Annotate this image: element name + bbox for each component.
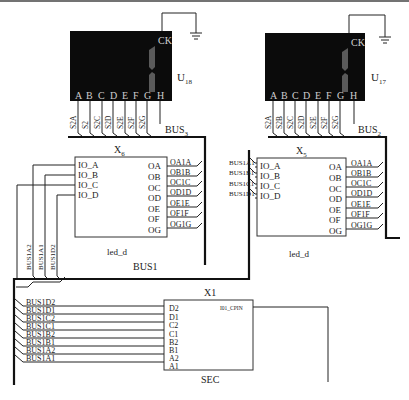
wire-label: BUS1A2 [25, 244, 33, 270]
output-pin: OE [148, 204, 160, 214]
ref-x1: X1 [204, 287, 216, 298]
decoder-name: led_d [107, 247, 127, 257]
output-pin: OF [329, 215, 341, 225]
segment-lower [149, 72, 155, 92]
output-pin: OE [329, 205, 341, 215]
pin-e: E [315, 90, 321, 101]
output-pin: OG [329, 226, 342, 236]
wire-label: OC1C [351, 179, 371, 188]
wire-label: OF1F [170, 209, 189, 218]
ground-icon [379, 37, 391, 43]
input-pin: IO_A [78, 160, 99, 170]
decoder-x6[interactable]: X6 IO_A IO_B IO_C IO_D OA OB OC OD OE OF… [75, 144, 167, 257]
wire-label: S2F [320, 117, 329, 129]
wire-label: S2B [275, 116, 284, 129]
pin-b: B [86, 90, 93, 101]
wire-label: S2D [104, 115, 113, 129]
wire-label: OC1C [170, 178, 190, 187]
ref-x5: X5 [296, 145, 307, 159]
output-pin: I01_CPIN [220, 305, 243, 311]
output-pin: OF [148, 214, 160, 224]
wire-label: S2G [331, 115, 340, 129]
wire-label: BUS1A1 [26, 354, 55, 363]
pin-e: E [122, 90, 128, 101]
ck-label: CK [351, 37, 366, 48]
wire-label: S2 [81, 121, 90, 129]
display-u18[interactable]: CK A B C D E F G H [70, 31, 173, 101]
decoder-x5[interactable]: X5 IO_A IO_B IO_C IO_D OA OB OC OD OE OF… [257, 145, 346, 259]
sec-name: SEC [201, 374, 220, 385]
wire-label: BUS1A1 [37, 244, 45, 270]
wire-label: S2C [286, 116, 295, 129]
output-pin: OA [148, 161, 161, 171]
wire-label: OG1G [351, 221, 373, 230]
wire-label: S2D [297, 115, 306, 129]
wire-label: OE1E [170, 199, 190, 208]
ref-u17: U17 [371, 71, 386, 86]
wire-label: BUS1C1 [229, 180, 255, 188]
output-pin: OD [148, 193, 161, 203]
ck-wire [162, 13, 196, 33]
input-pin: IO_D [260, 191, 281, 201]
bus-entry [16, 282, 49, 287]
pin-f: F [133, 90, 139, 101]
wire-label: OB1B [170, 168, 190, 177]
input-pin: IO_D [78, 190, 99, 200]
pin-c: C [292, 90, 299, 101]
wire-label: OD1D [170, 188, 192, 197]
output-pin: OB [148, 172, 161, 182]
output-pin: OD [329, 194, 342, 204]
ref-u18: U18 [177, 71, 192, 86]
wire-label: S2A [69, 115, 78, 129]
wire-label: S2C [93, 116, 102, 129]
wire-label: OB1B [351, 169, 371, 178]
segment-upper [342, 48, 348, 71]
input-pin: IO_B [78, 170, 98, 180]
wire-label: OF1F [351, 210, 370, 219]
pin-a: A [270, 90, 278, 101]
input-pin: D2 [169, 304, 179, 313]
pin-d: D [303, 90, 310, 101]
schematic-canvas: CK A B C D E F G H U18 S2A S2 S2C S2D [0, 0, 409, 400]
wire-label: S2E [116, 116, 125, 129]
pin-b: B [281, 90, 288, 101]
cpin-wire [253, 307, 328, 382]
wire-label: BUS1D1 [229, 190, 255, 198]
wire-label: OA1A [170, 158, 192, 167]
pin-g: G [337, 90, 344, 101]
wire-label: S2G [138, 115, 147, 129]
output-pin: OC [148, 183, 161, 193]
ground-icon [190, 33, 202, 39]
pin-g: G [144, 90, 151, 101]
segment-upper [149, 46, 155, 70]
output-pin: OB [329, 173, 342, 183]
pin-c: C [98, 90, 105, 101]
decoder-name: led_d [289, 249, 309, 259]
wire-label: BUS1A1 [229, 159, 255, 167]
wire-label: OA1A [351, 159, 373, 168]
input-pin: IO_C [260, 181, 280, 191]
input-pin: A1 [169, 362, 179, 371]
wire-label: BUS1D2 [49, 244, 57, 270]
wire-label: OD1D [351, 189, 373, 198]
ck-label: CK [158, 35, 173, 46]
wire-label: OE1E [351, 200, 371, 209]
output-pin: OG [148, 225, 161, 235]
output-pin: OC [329, 184, 342, 194]
sec-module[interactable]: X1 D2 D1 C2 C1 B2 B1 A2 A1 I01_CPIN SEC [164, 287, 253, 385]
input-pin: IO_C [78, 180, 98, 190]
wire-label: S2F [127, 117, 136, 129]
pin-h: H [157, 90, 164, 101]
wire-label: S2A [264, 115, 273, 129]
input-pin: IO_A [260, 161, 281, 171]
wire-label: S2E [309, 116, 318, 129]
pin-a: A [75, 90, 83, 101]
input-pin: C2 [169, 321, 178, 330]
wire-label: BUS1B1 [229, 169, 255, 177]
input-pin: IO_B [260, 171, 280, 181]
output-pin: OA [329, 162, 342, 172]
bus1-label: BUS1 [133, 261, 157, 272]
display-u17[interactable]: CK A B C D E F G H [265, 33, 366, 101]
ref-x6: X6 [114, 144, 125, 158]
wire-label: OG1G [170, 220, 192, 229]
